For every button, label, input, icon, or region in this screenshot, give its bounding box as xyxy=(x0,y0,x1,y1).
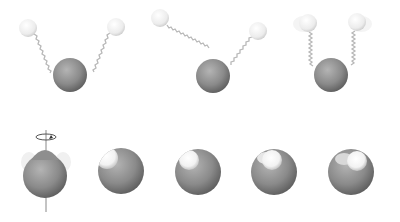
hydrogen-atom xyxy=(347,151,367,171)
spring-bond-right xyxy=(231,37,252,65)
rotation-frame-2 xyxy=(96,147,144,194)
spring-bond-right xyxy=(93,33,110,72)
spring-bond-left xyxy=(167,25,209,48)
spring-bond-left xyxy=(309,32,313,66)
oxygen-atom xyxy=(53,58,87,92)
rotation-frame-1 xyxy=(21,130,71,212)
hydrogen-atom xyxy=(96,147,118,169)
hydrogen-atom xyxy=(249,22,267,40)
oxygen-atom xyxy=(23,154,67,198)
rotation-frame-4 xyxy=(251,149,297,195)
oxygen-atom xyxy=(196,59,230,93)
symmetric-stretch-mode xyxy=(19,18,125,92)
hydrogen-atom xyxy=(299,14,317,32)
hydrogen-atom xyxy=(19,19,37,37)
rotation-arrowhead-icon xyxy=(49,135,53,139)
hydrogen-atom xyxy=(151,9,169,27)
oxygen-top-lobe xyxy=(31,150,59,160)
oxygen-atom xyxy=(314,58,348,92)
hydrogen-atom xyxy=(179,150,199,170)
water-molecule-modes-diagram xyxy=(0,0,400,222)
hydrogen-atom xyxy=(107,18,125,36)
rotation-frame-5 xyxy=(328,149,374,195)
bending-mode xyxy=(293,13,372,92)
hydrogen-atom xyxy=(348,13,366,31)
asymmetric-stretch-mode xyxy=(151,9,267,93)
spring-bond-left xyxy=(34,34,51,73)
hydrogen-atom xyxy=(262,150,282,170)
rotation-frame-3 xyxy=(175,149,221,195)
spring-bond-right xyxy=(351,31,355,65)
